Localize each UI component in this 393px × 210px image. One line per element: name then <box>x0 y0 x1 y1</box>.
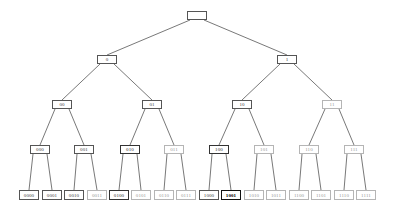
tree-node-1: 1 <box>277 55 297 64</box>
tree-edge <box>119 154 123 190</box>
tree-node-1101: 1101 <box>311 190 331 200</box>
tree-edge <box>47 154 52 190</box>
tree-node-1111: 1111 <box>356 190 376 200</box>
tree-edge <box>164 154 167 190</box>
tree-edge <box>219 109 235 145</box>
tree-node-1100: 1100 <box>289 190 309 200</box>
tree-node-111: 111 <box>344 145 364 154</box>
tree-node-1000: 1000 <box>199 190 219 200</box>
tree-edge <box>114 64 152 100</box>
tree-node-00: 00 <box>52 100 72 109</box>
tree-edge <box>91 154 97 190</box>
tree-edge <box>69 109 84 145</box>
tree-root-node <box>187 11 207 20</box>
tree-node-001: 001 <box>74 145 94 154</box>
tree-node-10: 10 <box>232 100 252 109</box>
tree-node-010: 010 <box>120 145 140 154</box>
tree-edge <box>344 154 347 190</box>
tree-node-1011: 1011 <box>266 190 286 200</box>
tree-node-0001: 0001 <box>42 190 62 200</box>
tree-edge <box>316 154 321 190</box>
tree-node-11: 11 <box>322 100 342 109</box>
tree-edge <box>62 64 100 100</box>
tree-node-0110: 0110 <box>154 190 174 200</box>
tree-node-0: 0 <box>97 55 117 64</box>
tree-node-1010: 1010 <box>244 190 264 200</box>
tree-node-0100: 0100 <box>109 190 129 200</box>
tree-edge <box>294 64 332 100</box>
tree-edge <box>249 109 264 145</box>
tree-edge <box>309 109 325 145</box>
tree-edge <box>339 109 354 145</box>
tree-edge <box>181 154 186 190</box>
tree-node-0000: 0000 <box>19 190 39 200</box>
tree-edge <box>254 154 257 190</box>
tree-node-0111: 0111 <box>176 190 196 200</box>
tree-node-011: 011 <box>164 145 184 154</box>
tree-edge <box>130 109 145 145</box>
tree-edge <box>74 154 77 190</box>
tree-edge <box>29 154 33 190</box>
tree-node-0101: 0101 <box>131 190 151 200</box>
tree-edge <box>159 109 174 145</box>
tree-edge <box>242 64 280 100</box>
tree-edge <box>271 154 276 190</box>
tree-edge <box>107 20 190 55</box>
tree-node-000: 000 <box>30 145 50 154</box>
tree-node-1001: 1001 <box>221 190 241 200</box>
tree-node-1110: 1110 <box>334 190 354 200</box>
tree-node-100: 100 <box>209 145 229 154</box>
tree-node-01: 01 <box>142 100 162 109</box>
binary-tree-diagram: 0100011011000001010011100101110111000000… <box>0 0 393 210</box>
tree-node-0010: 0010 <box>64 190 84 200</box>
tree-edge <box>361 154 366 190</box>
tree-node-101: 101 <box>254 145 274 154</box>
tree-node-110: 110 <box>299 145 319 154</box>
tree-edge <box>137 154 141 190</box>
tree-edge <box>204 20 287 55</box>
tree-edge <box>209 154 212 190</box>
tree-edge <box>299 154 302 190</box>
tree-edge <box>226 154 231 190</box>
tree-node-0011: 0011 <box>87 190 107 200</box>
tree-edge <box>40 109 55 145</box>
